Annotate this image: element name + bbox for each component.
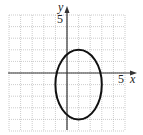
ellipse-curve xyxy=(55,50,101,120)
y-axis-arrow-icon xyxy=(65,6,70,13)
y-tick-label: 5 xyxy=(57,12,63,26)
graph: y 5 5 x xyxy=(0,0,143,135)
x-axis-label: x xyxy=(129,72,136,86)
x-tick-label: 5 xyxy=(118,72,124,86)
